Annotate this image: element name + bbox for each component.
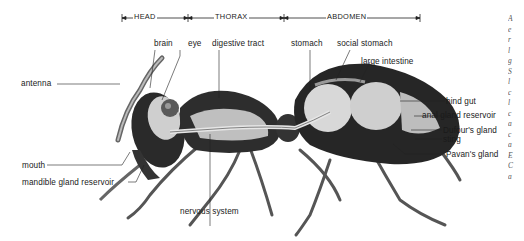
label-eye: eye xyxy=(188,39,202,48)
label-sting: sting xyxy=(443,135,461,144)
caption-fragment: c xyxy=(508,109,524,120)
caption-fragment: a xyxy=(508,119,524,130)
caption-fragment: l xyxy=(508,46,524,57)
caption-fragment: l xyxy=(508,98,524,109)
caption-fragment: c xyxy=(508,88,524,99)
label-anal-gland-reservoir: anal gland reservoir xyxy=(422,111,496,120)
label-social-stomach: social stomach xyxy=(337,39,393,48)
label-mouth: mouth xyxy=(22,161,45,170)
caption-fragment: E xyxy=(508,151,524,162)
label-antenna: antenna xyxy=(21,79,51,88)
label-digestive-tract: digestive tract xyxy=(212,39,264,48)
caption-fragment: g xyxy=(508,56,524,67)
label-pavans-gland: Pavan's gland xyxy=(446,150,498,159)
region-label-head: HEAD xyxy=(133,13,157,21)
label-stomach: stomach xyxy=(291,39,323,48)
label-brain: brain xyxy=(154,39,173,48)
caption-fragment: a xyxy=(508,172,524,183)
ant-anatomy-diagram: HEAD THORAX ABDOMEN brain eye digestive … xyxy=(0,0,524,241)
caption-fragment: r xyxy=(508,35,524,46)
caption-fragment: C xyxy=(508,161,524,172)
label-mandible-gland-reservoir: mandible gland reservoir xyxy=(22,178,114,187)
caption-fragment: e xyxy=(508,25,524,36)
label-hind-gut: hind gut xyxy=(446,97,476,106)
label-nervous-system: nervous system xyxy=(180,207,239,216)
caption-fragment: S xyxy=(508,67,524,78)
caption-fragment: A xyxy=(508,14,524,25)
stomach-shape xyxy=(304,84,352,132)
region-label-abdomen: ABDOMEN xyxy=(326,13,367,21)
cropped-caption-text: AerlgSlclcacaECa xyxy=(508,14,524,182)
ant-illustration xyxy=(100,58,460,235)
diagram-canvas xyxy=(0,0,524,241)
caption-fragment: c xyxy=(508,130,524,141)
body-region-ruler xyxy=(122,14,420,22)
label-large-intestine: large intestine xyxy=(361,57,413,66)
region-label-thorax: THORAX xyxy=(214,13,249,21)
caption-fragment: l xyxy=(508,77,524,88)
caption-fragment: a xyxy=(508,140,524,151)
label-dufours-gland: Dufour's gland xyxy=(443,126,497,135)
